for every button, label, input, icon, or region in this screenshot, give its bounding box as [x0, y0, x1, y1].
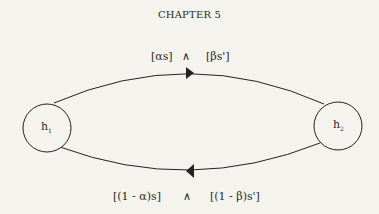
diagram-graphics	[0, 0, 379, 214]
bottom-label-left: [(1 - α)s]	[113, 190, 161, 203]
bottom-edge	[60, 143, 320, 170]
bottom-arrow-icon	[186, 164, 194, 178]
bottom-label-op: ∧	[183, 190, 191, 203]
bottom-label-right: [(1 - β)s']	[210, 190, 260, 203]
node-h2-label: h2	[333, 118, 344, 132]
node-h1-label: h1	[41, 120, 52, 134]
top-arrow-icon	[186, 67, 194, 79]
top-edge	[54, 74, 324, 104]
